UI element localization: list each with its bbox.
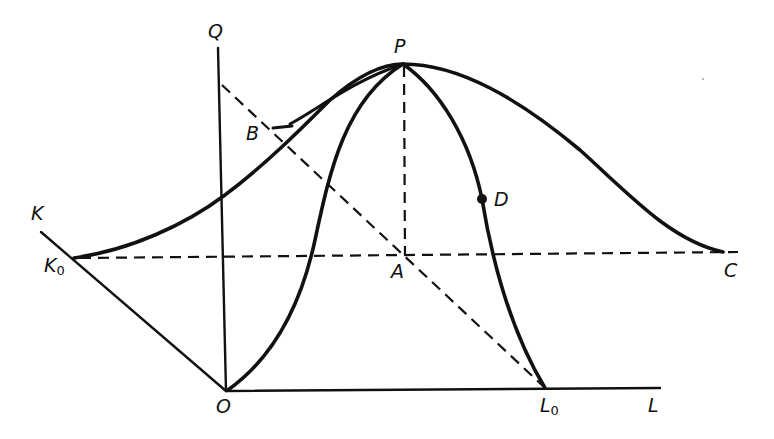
- label-c: C: [724, 259, 738, 281]
- label-k0-sub: 0: [56, 263, 64, 278]
- label-l0-main: L: [540, 394, 551, 416]
- label-q: Q: [208, 20, 223, 42]
- speck: [702, 78, 704, 80]
- b-loop-curve: [290, 64, 403, 124]
- p-a-dashed-line: [404, 66, 405, 255]
- label-l0-sub: 0: [551, 403, 559, 418]
- label-a: A: [389, 260, 404, 282]
- label-l0: L0: [540, 394, 559, 418]
- outer-curve: [74, 64, 723, 258]
- label-d: D: [494, 188, 509, 210]
- axes: [41, 48, 660, 391]
- label-b: B: [246, 122, 259, 144]
- label-k: K: [31, 202, 45, 224]
- q-axis: [218, 48, 226, 391]
- k0-c-dashed-line: [80, 252, 738, 258]
- b-tick: [273, 126, 292, 128]
- production-surface-diagram: Q P B K K0 A D C O L0 L: [0, 0, 774, 439]
- label-l: L: [648, 394, 659, 416]
- inner-curve: [228, 64, 545, 390]
- diagonal-dashed-line: [222, 85, 543, 386]
- label-k0: K0: [44, 254, 65, 278]
- dashed-lines: [80, 66, 738, 386]
- label-p: P: [394, 35, 406, 57]
- l-axis: [226, 388, 660, 391]
- label-o: O: [216, 395, 231, 417]
- point-d-marker: [477, 194, 487, 204]
